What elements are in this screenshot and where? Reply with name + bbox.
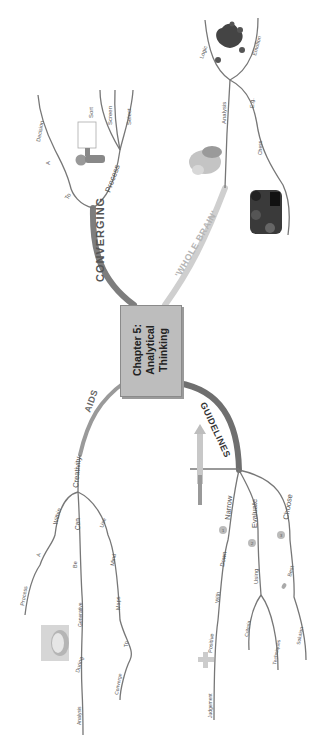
- aids-to-label: To: [123, 641, 129, 647]
- converging-select-label: Select: [126, 108, 132, 125]
- heart-character-icon: [215, 22, 245, 64]
- small-marker-icon: [281, 582, 287, 589]
- whole-brain-emotion-label: Emotion: [251, 35, 262, 56]
- aids-branch: [80, 382, 125, 455]
- guidelines-narrow-label: Narrow: [223, 495, 234, 520]
- aids-a-label: A: [35, 552, 42, 557]
- aids-maps-label: Maps: [115, 596, 121, 610]
- guidelines-positive-label: Positive: [207, 633, 215, 653]
- whole-brain-logic-label: Logic: [198, 45, 208, 60]
- aids-can-label: Can: [74, 518, 81, 530]
- face-photo-icon: [41, 625, 69, 661]
- guidelines-solution-label: Solution: [295, 626, 304, 645]
- aids-during-label: During: [74, 656, 84, 673]
- whole-brain-chess-label: Chess: [257, 140, 263, 155]
- brain-cartoon-icon: [189, 146, 222, 175]
- aids-analysis-label: Analysis: [76, 706, 82, 725]
- guidelines-down-label: Down: [219, 551, 228, 567]
- central-topic-title: Chapter 5: Analytical Thinking: [131, 324, 170, 376]
- converging-sort-label: Sort: [88, 107, 94, 118]
- whole-brain-label: 'WHOLE BRAIN': [173, 209, 219, 279]
- step-marker-2-icon: 2: [248, 539, 256, 547]
- upward-arrow-icon: [194, 424, 206, 505]
- guidelines-using-label: Using: [253, 569, 259, 584]
- central-topic-line2: Analytical: [144, 325, 156, 375]
- aids-be-label: Be: [72, 561, 78, 568]
- aids-mind-label: Mind: [109, 553, 117, 566]
- aids-creativity-label: Creativity: [71, 456, 83, 488]
- aids-within-label: Within: [52, 508, 62, 526]
- central-topic-line1: Chapter 5:: [131, 324, 143, 376]
- plus-sign-icon: [198, 652, 214, 668]
- whole-brain-analysis-label: Analysis: [221, 102, 227, 124]
- guidelines-techniques-label: Techniques: [271, 639, 281, 665]
- converging-label: CONVERGING: [94, 197, 106, 282]
- converging-process-label: Process: [103, 163, 121, 193]
- guidelines-judgement-label: Judgement: [207, 693, 213, 718]
- thinking-figure-icon: [76, 122, 106, 166]
- converging-to-label: To: [64, 191, 73, 200]
- step-marker-3-icon: 3: [277, 531, 285, 539]
- converging-screen-label: Screen: [107, 106, 113, 125]
- central-topic-line3: Thinking: [157, 328, 169, 372]
- guidelines-choose-label: Choose: [281, 493, 294, 520]
- guidelines-evaluate-label: Evaluate: [250, 499, 259, 528]
- step-marker-1-icon: 1: [219, 526, 227, 534]
- whole-brain-eg-label: E.g.: [249, 98, 255, 108]
- aids-generative-label: Generative: [77, 602, 83, 627]
- chess-pieces-icon: [250, 190, 282, 234]
- converging-a-label: A: [45, 161, 51, 165]
- converging-decision-label: Decision: [35, 120, 45, 142]
- guidelines-criteria-label: Criteria: [243, 620, 252, 637]
- guidelines-with-label: With: [214, 592, 221, 603]
